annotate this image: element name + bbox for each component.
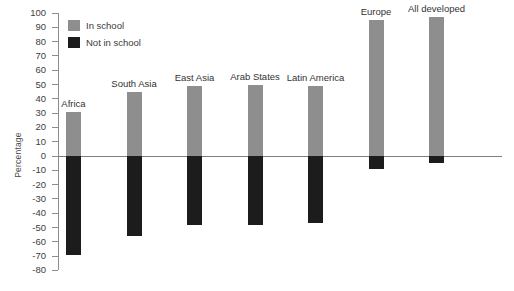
- y-tick-mark: [52, 127, 58, 128]
- category-label: Africa: [61, 98, 85, 109]
- y-tick-label: 70: [0, 51, 46, 61]
- y-tick-label: -20: [0, 180, 46, 190]
- y-tick-mark: [52, 98, 58, 99]
- bar-in-school: [369, 20, 384, 156]
- bar-in-school: [248, 85, 263, 157]
- y-tick-label: -10: [0, 165, 46, 175]
- y-axis-line: [58, 13, 59, 270]
- category-label: All developed: [408, 3, 465, 14]
- y-tick-mark: [52, 156, 58, 157]
- y-tick-mark: [52, 41, 58, 42]
- y-tick-mark: [52, 141, 58, 142]
- bar-in-school: [429, 17, 444, 156]
- y-tick-label: -80: [0, 265, 46, 275]
- bar-not-in-school: [429, 156, 444, 163]
- bar-not-in-school: [369, 156, 384, 169]
- y-tick-label: 10: [0, 137, 46, 147]
- bar-in-school: [127, 92, 142, 156]
- y-tick-mark: [52, 84, 58, 85]
- bar-in-school: [308, 86, 323, 156]
- category-label: East Asia: [175, 72, 215, 83]
- y-tick-mark: [52, 27, 58, 28]
- category-label: Europe: [361, 6, 392, 17]
- category-label: Latin America: [287, 72, 345, 83]
- y-tick-mark: [52, 13, 58, 14]
- category-label: South Asia: [111, 78, 156, 89]
- y-tick-label: -50: [0, 223, 46, 233]
- legend-item[interactable]: Not in school: [68, 36, 141, 49]
- y-tick-mark: [52, 170, 58, 171]
- y-tick-label: 40: [0, 94, 46, 104]
- y-tick-label: 100: [0, 8, 46, 18]
- y-tick-label: -70: [0, 251, 46, 261]
- bar-not-in-school: [66, 156, 81, 255]
- bar-not-in-school: [248, 156, 263, 225]
- y-tick-mark: [52, 113, 58, 114]
- y-tick-mark: [52, 256, 58, 257]
- y-tick-label: 0: [0, 151, 46, 161]
- legend-swatch-icon: [68, 20, 80, 31]
- y-tick-label: 80: [0, 37, 46, 47]
- category-label: Arab States: [230, 71, 280, 82]
- chart-legend: In schoolNot in school: [68, 19, 141, 53]
- legend-label: In school: [86, 20, 124, 31]
- bar-in-school: [187, 86, 202, 156]
- y-tick-label: -60: [0, 237, 46, 247]
- bar-chart: Percentage 1009080706050403020100-10-20-…: [0, 0, 514, 291]
- bar-not-in-school: [308, 156, 323, 223]
- y-tick-label: 20: [0, 122, 46, 132]
- y-tick-mark: [52, 198, 58, 199]
- y-tick-mark: [52, 55, 58, 56]
- y-tick-mark: [52, 70, 58, 71]
- legend-swatch-icon: [68, 37, 80, 48]
- y-tick-label: 50: [0, 80, 46, 90]
- legend-label: Not in school: [86, 37, 141, 48]
- y-tick-label: -30: [0, 194, 46, 204]
- y-tick-label: 60: [0, 65, 46, 75]
- bar-not-in-school: [187, 156, 202, 225]
- y-tick-label: 30: [0, 108, 46, 118]
- y-tick-mark: [52, 241, 58, 242]
- bar-in-school: [66, 112, 81, 156]
- bar-not-in-school: [127, 156, 142, 236]
- legend-item[interactable]: In school: [68, 19, 141, 32]
- y-tick-label: -40: [0, 208, 46, 218]
- y-tick-mark: [52, 213, 58, 214]
- y-tick-mark: [52, 227, 58, 228]
- y-tick-mark: [52, 184, 58, 185]
- y-tick-label: 90: [0, 22, 46, 32]
- y-tick-mark: [52, 270, 58, 271]
